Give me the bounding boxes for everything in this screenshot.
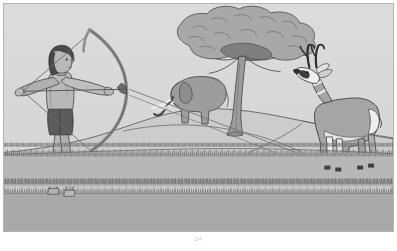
archer-foot-front (64, 190, 75, 196)
antelope-hoof-1 (324, 166, 330, 170)
antelope-eye (306, 71, 308, 73)
illustration-scene: 24 (0, 0, 397, 251)
ground-band-near (4, 192, 393, 231)
figure-caption: 24 (0, 236, 397, 242)
archer-loincloth (48, 107, 73, 135)
archer-eye (66, 58, 68, 60)
archer-foot-rear (48, 188, 59, 194)
savanna-archer-artwork (4, 4, 393, 231)
grass-tufts-upper (4, 143, 393, 157)
picture-frame (3, 3, 394, 232)
foreground-ground (4, 143, 393, 231)
antelope-hoof-2 (335, 168, 341, 172)
antelope-hoof-4 (368, 164, 374, 168)
antelope-hoof-3 (357, 166, 363, 170)
grass-tufts-lower (4, 178, 393, 194)
